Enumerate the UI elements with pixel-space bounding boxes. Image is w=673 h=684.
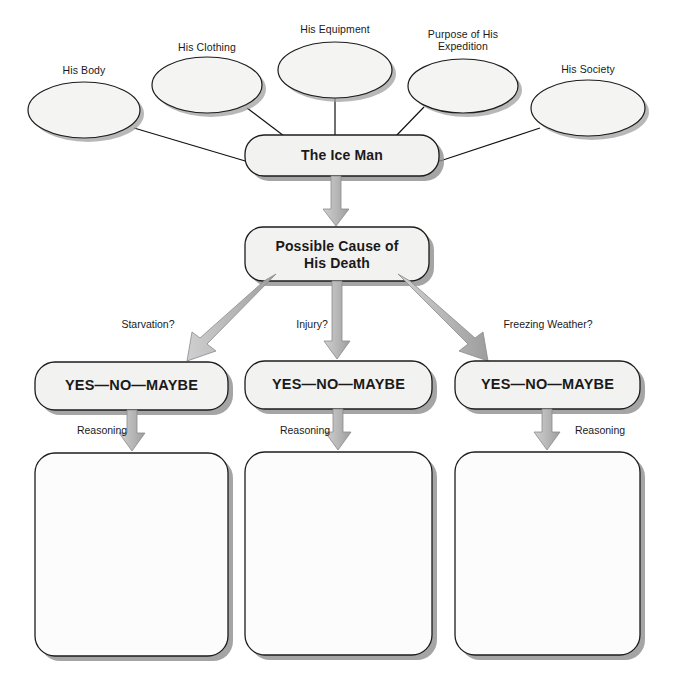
- topic-ellipse-group: [28, 42, 649, 142]
- the-ice-man-box[interactable]: [245, 135, 439, 176]
- arrow-branch-injury: [324, 281, 350, 359]
- his-clothing-ellipse[interactable]: [152, 57, 262, 113]
- possible-cause-box[interactable]: [245, 227, 429, 281]
- verdict-box-starvation[interactable]: [35, 362, 228, 410]
- his-body-ellipse[interactable]: [28, 82, 140, 138]
- connector-his-body: [134, 128, 252, 163]
- arrow-reasoning-starvation: [119, 410, 145, 451]
- ice-man-graphic-organizer: His Body His Clothing His Equipment Purp…: [0, 0, 673, 684]
- connector-purpose-of-his-expedition: [394, 107, 424, 138]
- answer-box-injury[interactable]: [245, 452, 432, 655]
- arrow-branch-starvation: [187, 274, 276, 361]
- arrow-reasoning-freezing-weather: [534, 409, 560, 450]
- center-node-group: [245, 135, 444, 181]
- answer-box-starvation[interactable]: [35, 453, 228, 656]
- purpose-of-his-expedition-ellipse[interactable]: [408, 59, 518, 113]
- his-equipment-ellipse[interactable]: [278, 42, 392, 98]
- diagram-canvas: [0, 0, 673, 684]
- answer-box-group: [35, 452, 645, 661]
- arrow-branch-freezing-weather: [398, 274, 488, 361]
- connector-his-society: [437, 128, 540, 162]
- verdict-box-group: [35, 361, 645, 415]
- his-society-ellipse[interactable]: [531, 80, 645, 136]
- answer-box-freezing-weather[interactable]: [455, 452, 640, 655]
- verdict-box-freezing-weather[interactable]: [455, 361, 640, 409]
- arrow-reasoning-injury: [325, 409, 351, 450]
- arrow-ice-man-to-cause: [323, 176, 349, 226]
- verdict-box-injury[interactable]: [245, 361, 432, 409]
